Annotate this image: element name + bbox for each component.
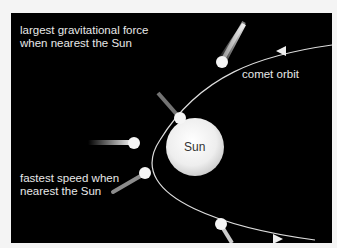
label-comet-orbit: comet orbit (242, 68, 299, 81)
comet-upper-right-icon (216, 22, 246, 68)
comet-upper-left-icon (158, 93, 186, 124)
comet-left-icon (88, 137, 140, 149)
label-line: when nearest the Sun (20, 37, 148, 50)
label-fastest-speed: fastest speed when nearest the Sun (20, 172, 119, 198)
label-line: fastest speed when (20, 172, 119, 185)
label-line: largest gravitational force (20, 24, 148, 37)
label-line: nearest the Sun (20, 185, 119, 198)
label-gravitational-force: largest gravitational force when nearest… (20, 24, 148, 50)
orbit-arrow-bottom-icon (273, 234, 283, 243)
label-sun: Sun (184, 141, 205, 154)
diagram-panel: largest gravitational force when nearest… (11, 13, 332, 243)
